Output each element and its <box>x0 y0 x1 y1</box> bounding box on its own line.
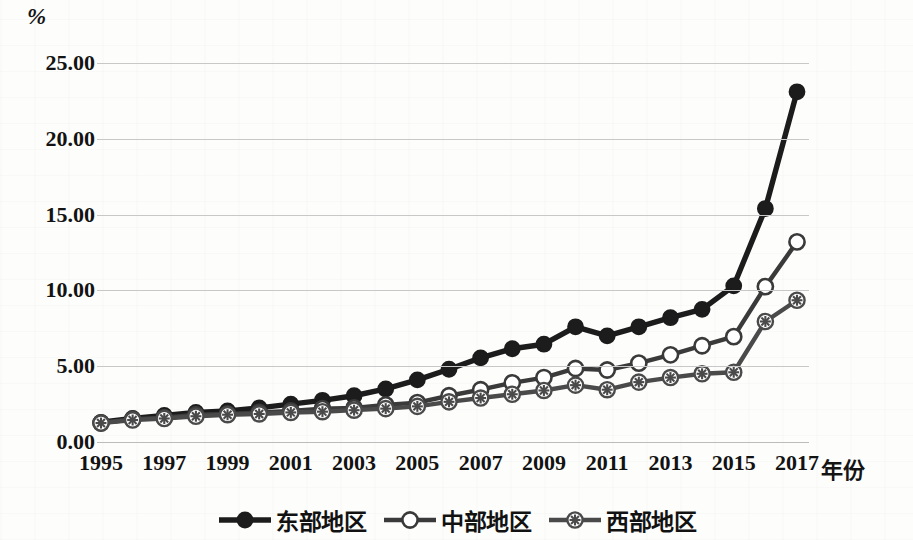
legend-label: 东部地区 <box>276 503 366 537</box>
legend-marker-filled-circle-icon <box>217 509 273 531</box>
gridline <box>97 63 809 64</box>
x-axis-title: 年份 <box>821 452 865 484</box>
x-axis-tick-label: 2005 <box>395 450 439 476</box>
data-point-marker <box>188 409 203 424</box>
data-point-marker <box>157 411 172 426</box>
x-axis-tick-label: 2017 <box>775 450 819 476</box>
data-point-marker <box>536 383 551 398</box>
legend-label: 中部地区 <box>441 503 531 537</box>
data-point-marker <box>441 394 456 409</box>
data-point-marker <box>758 314 773 329</box>
data-point-marker <box>473 350 488 365</box>
data-point-marker <box>346 403 361 418</box>
y-axis-tick-label: 10.00 <box>3 277 95 303</box>
data-point-marker <box>283 405 298 420</box>
x-axis-tick-label: 2015 <box>712 450 756 476</box>
x-axis-tick-label: 1997 <box>142 450 186 476</box>
data-point-marker <box>726 329 741 344</box>
data-point-marker <box>252 406 267 421</box>
y-axis-tick-label: 20.00 <box>3 126 95 152</box>
x-axis-tick-label: 2001 <box>269 450 313 476</box>
x-axis-tick-label: 2007 <box>459 450 503 476</box>
x-axis-tick-label: 1999 <box>206 450 250 476</box>
data-point-marker <box>93 415 108 430</box>
data-point-marker <box>758 279 773 294</box>
legend-item[interactable]: 东部地区 <box>217 503 366 537</box>
series-layer <box>101 63 797 442</box>
data-point-marker <box>631 356 646 371</box>
gridline <box>97 215 809 216</box>
data-point-marker <box>441 362 456 377</box>
x-axis-tick-labels: 1995199719992001200320052007200920112013… <box>0 450 913 486</box>
data-point-marker <box>789 234 804 249</box>
data-point-marker <box>631 319 646 334</box>
data-point-marker <box>410 399 425 414</box>
y-axis-tick-label: 25.00 <box>3 50 95 76</box>
data-point-marker <box>378 381 393 396</box>
x-axis-tick-label: 2013 <box>648 450 692 476</box>
data-point-marker <box>567 512 582 527</box>
gridline <box>97 442 809 443</box>
data-point-marker <box>694 302 709 317</box>
legend-item[interactable]: 西部地区 <box>547 503 696 537</box>
y-axis-tick-label: 5.00 <box>3 353 95 379</box>
legend-label: 西部地区 <box>606 503 696 537</box>
chart-figure: % 0.005.0010.0015.0020.0025.00 199519971… <box>0 0 913 540</box>
data-point-marker <box>600 382 615 397</box>
data-point-marker <box>237 512 252 527</box>
data-point-marker <box>568 378 583 393</box>
data-point-marker <box>378 401 393 416</box>
data-point-marker <box>600 328 615 343</box>
data-point-marker <box>600 362 615 377</box>
x-axis-tick-label: 2009 <box>522 450 566 476</box>
data-point-marker <box>536 337 551 352</box>
legend-marker-open-circle-icon <box>382 509 438 531</box>
data-point-marker <box>315 404 330 419</box>
data-point-marker <box>473 390 488 405</box>
gridline <box>97 290 809 291</box>
data-point-marker <box>663 310 678 325</box>
data-point-marker <box>568 319 583 334</box>
data-point-marker <box>402 512 417 527</box>
data-point-marker <box>631 375 646 390</box>
data-point-marker <box>410 372 425 387</box>
legend-marker-crossed-circle-icon <box>547 509 603 531</box>
plot-area <box>101 63 797 442</box>
data-point-marker <box>663 347 678 362</box>
data-point-marker <box>789 84 804 99</box>
data-point-marker <box>663 370 678 385</box>
y-axis-tick-label: 15.00 <box>3 202 95 228</box>
data-point-marker <box>505 387 520 402</box>
x-axis-tick-label: 2011 <box>586 450 629 476</box>
legend-item[interactable]: 中部地区 <box>382 503 531 537</box>
gridline <box>97 139 809 140</box>
data-point-marker <box>505 341 520 356</box>
data-point-marker <box>568 361 583 376</box>
x-axis-tick-label: 1995 <box>79 450 123 476</box>
data-point-marker <box>694 366 709 381</box>
data-point-marker <box>220 407 235 422</box>
x-axis-tick-label: 2003 <box>332 450 376 476</box>
chart-legend: 东部地区中部地区西部地区 <box>0 503 913 537</box>
gridline <box>97 366 809 367</box>
data-point-marker <box>789 293 804 308</box>
data-point-marker <box>694 338 709 353</box>
data-point-marker <box>125 412 140 427</box>
